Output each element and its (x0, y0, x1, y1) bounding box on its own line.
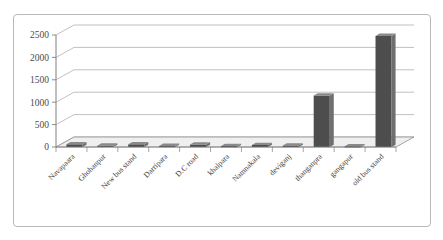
bar (190, 142, 210, 147)
bar-front-face (314, 95, 330, 147)
y-axis-label: 1000 (30, 98, 49, 108)
y-axis-label: 0 (44, 142, 49, 152)
bar (252, 143, 272, 147)
x-axis-category-label: khalpara (206, 152, 232, 178)
x-axis-category-label: gangapur (328, 152, 355, 179)
y-axis-label: 2500 (30, 30, 49, 40)
bar-front-face (128, 144, 144, 147)
bar-front-face (376, 36, 392, 147)
bar (314, 93, 334, 147)
bar (376, 34, 396, 147)
bar-side-face (330, 93, 334, 147)
x-axis-category-label: D.C road (174, 152, 201, 179)
x-axis-category-label: Navapaara (47, 152, 77, 182)
bar-side-face (392, 34, 396, 147)
bar (128, 142, 148, 147)
x-axis-category-label: Namnakala (231, 152, 263, 184)
bar-chart: 05001000150020002500NavapaaraGhohanpurNe… (14, 15, 432, 228)
plot-back-wall (56, 25, 414, 147)
chart-frame: 05001000150020002500NavapaaraGhohanpurNe… (13, 14, 431, 227)
y-axis-label: 1500 (30, 75, 49, 85)
y-axis-label: 2000 (30, 53, 49, 63)
y-axis-label: 500 (35, 120, 50, 130)
bar-front-face (66, 144, 82, 147)
x-axis-category-label: Darripara (142, 152, 170, 180)
bar (283, 143, 303, 147)
bar (66, 142, 86, 147)
x-axis-category-label: Ghohanpur (76, 152, 107, 183)
x-axis-category-label: old bus stand (350, 152, 386, 188)
x-axis-category-label: thanganpra (293, 152, 324, 183)
x-axis-category-label: deviganj (268, 152, 293, 177)
